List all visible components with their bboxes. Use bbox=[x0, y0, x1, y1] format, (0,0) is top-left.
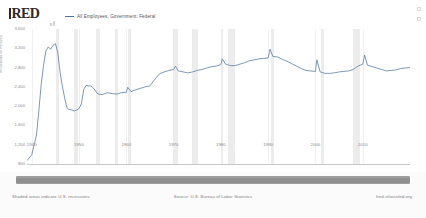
slider-handle[interactable] bbox=[16, 176, 410, 184]
x-tick-label: 1970 bbox=[169, 142, 179, 147]
y-tick-label: 2,400 bbox=[1, 85, 25, 89]
fred-url[interactable]: fred.stlouisfed.org bbox=[376, 194, 412, 199]
source-note: Source: U.S. Bureau of Labor Statistics bbox=[174, 194, 253, 199]
y-axis-ticks: 8001,2001,6002,0002,4002,8003,2003,600 bbox=[0, 26, 25, 168]
x-tick-label: 1990 bbox=[263, 142, 273, 147]
x-tick-label: 2000 bbox=[311, 142, 321, 147]
x-tick-label: 1980 bbox=[216, 142, 226, 147]
fred-logo[interactable]: RED bbox=[9, 7, 39, 21]
legend-label-series-0: All Employees, Government: Federal bbox=[77, 14, 155, 19]
recession-note: Shaded areas indicate U.S. recessions bbox=[12, 194, 90, 199]
y-tick-label: 3,200 bbox=[1, 46, 25, 50]
chart-legend[interactable]: All Employees, Government: Federal bbox=[65, 11, 155, 21]
x-tick-label: 2010 bbox=[358, 142, 368, 147]
date-range-slider[interactable] bbox=[16, 176, 410, 184]
x-tick-label: 1960 bbox=[121, 142, 131, 147]
y-tick-label: 800 bbox=[1, 162, 25, 166]
x-tick-label: 1940 bbox=[27, 142, 37, 147]
x-axis-line bbox=[27, 164, 410, 165]
sparkline-icon bbox=[47, 12, 59, 21]
x-tick-label: 1950 bbox=[74, 142, 84, 147]
chart-area: Thousands of Persons bbox=[0, 26, 426, 172]
x-axis-ticks: 19401950196019701980199020002010 bbox=[27, 142, 410, 150]
chart-header: RED All Employees, Government: Federal bbox=[0, 0, 426, 26]
legend-swatch-series-0 bbox=[65, 16, 74, 17]
fred-logo-text: RED bbox=[12, 6, 40, 21]
fred-chart-widget: RED All Employees, Government: Federal T… bbox=[0, 0, 426, 218]
y-tick-label: 1,200 bbox=[1, 143, 25, 147]
y-tick-label: 1,600 bbox=[1, 123, 25, 127]
y-tick-label: 2,000 bbox=[1, 104, 25, 108]
y-tick-label: 2,800 bbox=[1, 66, 25, 70]
menu-grid-icon[interactable] bbox=[416, 7, 422, 21]
y-tick-label: 3,600 bbox=[1, 27, 25, 31]
chart-footer: Shaded areas indicate U.S. recessions So… bbox=[0, 192, 426, 206]
